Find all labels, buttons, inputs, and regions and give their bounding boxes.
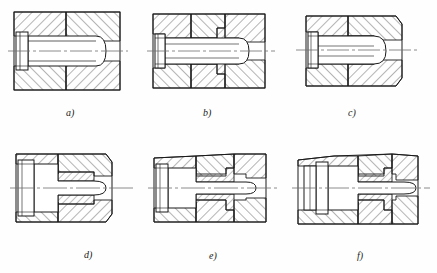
panel-d-figure — [10, 142, 135, 247]
panel-a — [8, 6, 128, 101]
panel-f-figure — [292, 142, 430, 247]
caption-b: b) — [203, 107, 211, 118]
panel-f — [292, 142, 430, 247]
caption-a: a) — [66, 107, 74, 118]
panel-b — [147, 6, 275, 101]
caption-c: c) — [348, 107, 356, 118]
drawing-sheet: a) — [0, 0, 437, 273]
panel-c-figure — [292, 6, 417, 101]
panel-e-figure — [148, 142, 280, 247]
panel-b-figure — [147, 6, 275, 101]
panel-c — [292, 6, 417, 101]
caption-e: e) — [209, 250, 217, 261]
caption-f: f) — [357, 250, 363, 261]
panel-e — [148, 142, 280, 247]
caption-d: d) — [84, 249, 92, 260]
panel-d — [10, 142, 135, 247]
panel-a-figure — [8, 6, 128, 101]
